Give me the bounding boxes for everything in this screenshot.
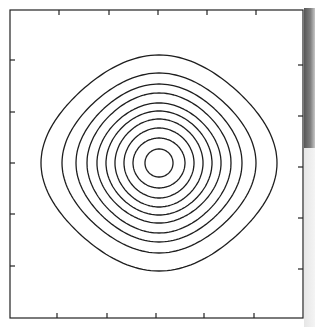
contour-line-level-6 [106, 111, 212, 215]
plot-border [10, 10, 303, 318]
plot-frame [10, 10, 303, 318]
contour-line-level-9 [133, 138, 185, 188]
contour-line-level-2 [62, 73, 256, 253]
contour-plot [0, 0, 315, 327]
contour-lines [41, 55, 277, 271]
contour-line-level-3 [76, 84, 242, 242]
contour-line-level-4 [87, 93, 231, 233]
axis-ticks [10, 10, 303, 318]
contour-line-level-10 [145, 149, 173, 177]
contour-line-level-7 [115, 119, 203, 207]
